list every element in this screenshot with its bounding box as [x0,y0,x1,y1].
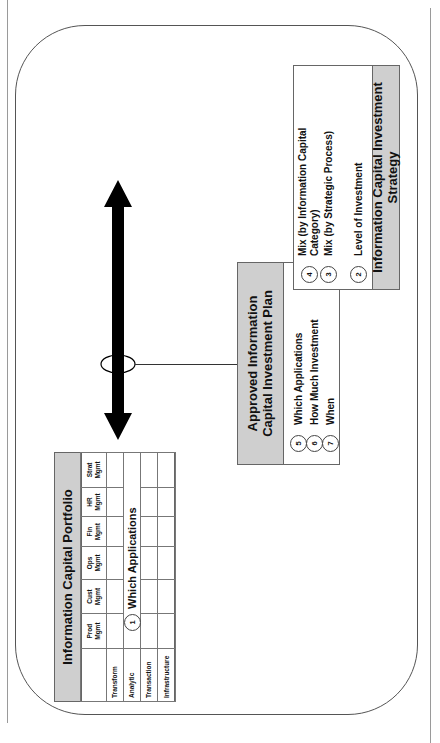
page-edge-line-left [7,0,8,723]
plan-item: 7 When [322,398,339,452]
portfolio-title: Information Capital Portfolio [55,453,82,701]
column-header: Prod Mgmt [81,614,107,649]
row-label: Analytic [124,649,141,702]
column-header: Strat Mgmt [81,453,107,488]
row-label: Transform [107,649,124,702]
connector-line [135,364,237,365]
double-arrow-icon [100,177,140,443]
portfolio-callout: 1 Which Applications [124,507,141,631]
portfolio-box: Information Capital Portfolio Prod Mgmt … [54,452,175,702]
plan-item: 6 How Much Investment [306,319,323,452]
diagram-canvas: Information Capital Portfolio Prod Mgmt … [0,0,440,743]
column-header: Fin Mgmt [81,517,107,547]
page-edge-line-right [430,8,431,743]
row-label: Infrastructure [158,649,176,702]
plan-title: Approved Information Capital Investment … [238,263,284,464]
strategy-item: 4 Mix (by Information Capital Category) [297,83,321,283]
number-badge: 4 [301,266,318,283]
plan-item: 5 Which Applications [290,333,307,452]
number-badge: 7 [322,435,339,452]
plan-box: Approved Information Capital Investment … [237,262,340,465]
row-label: Transaction [141,649,158,702]
number-badge: 6 [306,435,323,452]
strategy-item: 2 Level of Investment [350,163,367,283]
number-badge: 3 [320,266,337,283]
strategy-item: 3 Mix (by Strategic Process) [320,131,337,283]
number-badge: 5 [290,435,307,452]
column-header: Cust Mgmt [81,579,107,613]
number-badge: 1 [124,614,141,631]
column-header: Ops Mgmt [81,547,107,580]
number-badge: 2 [350,266,367,283]
corner-cell [81,649,107,702]
callout-label: Which Applications [126,507,139,609]
strategy-title: Information Capital Investment Strategy [372,66,399,289]
column-header: HR Mgmt [81,487,107,516]
